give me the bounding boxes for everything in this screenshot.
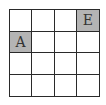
grid-cell xyxy=(55,53,77,75)
grid-cell xyxy=(77,75,99,97)
grid-cell xyxy=(10,10,32,32)
grid-cell xyxy=(32,75,54,97)
grid-cell xyxy=(77,32,99,54)
cell-e: E xyxy=(77,10,99,32)
grid-cell xyxy=(32,10,54,32)
grid-4x4: EA xyxy=(9,9,100,97)
grid-cell xyxy=(55,32,77,54)
grid-cell xyxy=(32,32,54,54)
grid-cell xyxy=(10,53,32,75)
grid-cell xyxy=(55,10,77,32)
grid-cell xyxy=(77,53,99,75)
grid-cell xyxy=(10,75,32,97)
grid-cell xyxy=(55,75,77,97)
grid-cell xyxy=(32,53,54,75)
cell-a: A xyxy=(10,32,32,54)
